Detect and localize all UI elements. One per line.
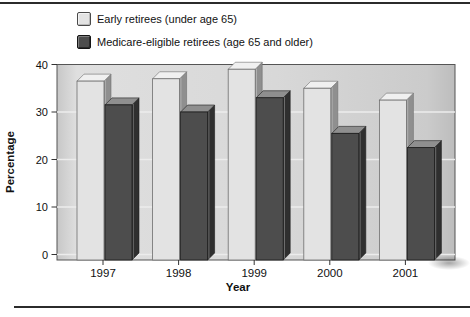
bar-group-1997 — [77, 74, 139, 260]
bar-2000-early — [304, 88, 331, 260]
x-tick-label-2001: 2001 — [393, 267, 419, 279]
y-tick-label-0: 0 — [42, 249, 48, 261]
legend-swatch-early — [77, 12, 91, 26]
bar-1997-medicare — [105, 105, 132, 260]
y-tick-label-30: 30 — [36, 106, 48, 118]
x-tick-label-1997: 1997 — [90, 267, 116, 279]
bar-2000-medicare — [332, 133, 359, 260]
bar-1999-early — [228, 69, 255, 260]
bar-2001-medicare — [407, 148, 434, 260]
bar-1999-medicare — [256, 98, 283, 260]
legend-swatch-medicare — [77, 35, 91, 49]
y-axis-title: Percentage — [4, 131, 16, 193]
corner-shadow — [428, 256, 470, 270]
legend-label-early: Early retirees (under age 65) — [97, 13, 237, 25]
bar-group-1999 — [228, 62, 290, 260]
y-tick-label-20: 20 — [36, 154, 48, 166]
bar-1998-early — [153, 79, 180, 260]
x-tick-label-1999: 1999 — [241, 267, 267, 279]
legend-item-medicare: Medicare-eligible retirees (age 65 and o… — [77, 35, 313, 49]
legend-label-medicare: Medicare-eligible retirees (age 65 and o… — [97, 36, 313, 48]
x-tick-label-2000: 2000 — [317, 267, 343, 279]
y-tick-label-10: 10 — [36, 201, 48, 213]
bar-1997-early — [77, 81, 104, 260]
chart-legend: Early retirees (under age 65) Medicare-e… — [77, 12, 313, 49]
y-tick-label-40: 40 — [36, 59, 48, 71]
x-tick-label-1998: 1998 — [166, 267, 192, 279]
bar-1998-medicare — [181, 112, 208, 260]
bar-2001-early — [379, 100, 406, 260]
x-axis-title: Year — [226, 281, 251, 293]
legend-item-early: Early retirees (under age 65) — [77, 12, 313, 26]
